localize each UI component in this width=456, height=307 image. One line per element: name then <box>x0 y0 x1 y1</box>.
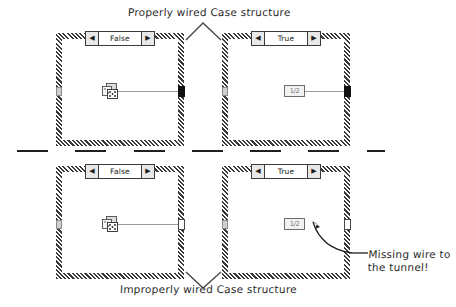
output-tunnel-unwired[interactable] <box>178 219 185 230</box>
selector-label[interactable]: True <box>265 165 307 178</box>
random-number-function-icon[interactable] <box>102 83 121 100</box>
section-divider <box>0 148 456 154</box>
input-tunnel[interactable] <box>222 87 228 96</box>
selector-label[interactable]: True <box>265 32 307 45</box>
selector-prev-arrow-icon[interactable]: ◀ <box>252 165 265 178</box>
wire-node-to-tunnel[interactable] <box>118 91 184 92</box>
output-tunnel-wired[interactable] <box>178 86 185 97</box>
case-structure-bottom-false[interactable]: ◀ False ▶ <box>56 166 184 279</box>
top-caption: Properly wired Case structure <box>128 6 291 18</box>
selector-next-arrow-icon[interactable]: ▶ <box>307 165 320 178</box>
selector-label[interactable]: False <box>99 32 141 45</box>
case-structure-bottom-true[interactable]: ◀ True ▶ 1/2 <box>222 166 350 279</box>
case-selector-top-false[interactable]: ◀ False ▶ <box>85 31 155 46</box>
numeric-constant-node[interactable]: 1/2 <box>284 218 305 230</box>
random-number-function-icon[interactable] <box>102 216 121 233</box>
output-tunnel-unwired[interactable] <box>344 219 351 230</box>
input-tunnel[interactable] <box>56 220 62 229</box>
input-tunnel[interactable] <box>222 220 228 229</box>
numeric-constant-node[interactable]: 1/2 <box>284 85 305 97</box>
input-tunnel[interactable] <box>56 87 62 96</box>
case-selector-bottom-false[interactable]: ◀ False ▶ <box>85 164 155 179</box>
wire-node-to-tunnel[interactable] <box>118 224 184 225</box>
bottom-caption: Improperly wired Case structure <box>120 283 298 295</box>
selector-next-arrow-icon[interactable]: ▶ <box>307 32 320 45</box>
selector-prev-arrow-icon[interactable]: ◀ <box>86 32 99 45</box>
output-tunnel-wired[interactable] <box>344 86 351 97</box>
case-structure-top-true[interactable]: ◀ True ▶ 1/2 <box>222 33 350 146</box>
selector-prev-arrow-icon[interactable]: ◀ <box>86 165 99 178</box>
selector-label[interactable]: False <box>99 165 141 178</box>
missing-wire-note: Missing wire to the tunnel! <box>367 248 452 274</box>
selector-next-arrow-icon[interactable]: ▶ <box>141 32 154 45</box>
case-selector-bottom-true[interactable]: ◀ True ▶ <box>251 164 321 179</box>
case-structure-top-false[interactable]: ◀ False ▶ <box>56 33 184 146</box>
case-selector-top-true[interactable]: ◀ True ▶ <box>251 31 321 46</box>
selector-prev-arrow-icon[interactable]: ◀ <box>252 32 265 45</box>
figure-canvas: Properly wired Case structure ◀ False ▶ <box>0 0 456 307</box>
selector-next-arrow-icon[interactable]: ▶ <box>141 165 154 178</box>
